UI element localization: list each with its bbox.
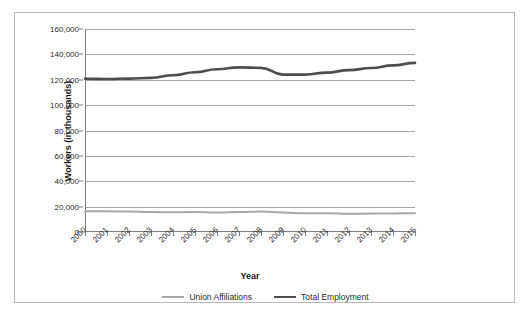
y-axis-tick-mark bbox=[79, 155, 83, 156]
y-axis-tick-mark bbox=[79, 54, 83, 55]
y-axis-tick-label: 100,000 bbox=[50, 101, 79, 110]
y-axis-tick-label: 40,000 bbox=[55, 177, 79, 186]
legend-label-total-employment: Total Employment bbox=[301, 292, 369, 302]
plot-area bbox=[85, 29, 415, 232]
y-axis-tick-label: 60,000 bbox=[55, 151, 79, 160]
chart-frame: Workers (in thousands) 020,00040,00060,0… bbox=[14, 12, 515, 303]
legend-item-total-employment: Total Employment bbox=[274, 292, 369, 302]
x-axis-title: Year bbox=[85, 271, 415, 281]
y-axis-tick-mark bbox=[79, 181, 83, 182]
series-line-total-employment bbox=[85, 63, 415, 79]
chart-legend: Union Affiliations Total Employment bbox=[15, 292, 516, 302]
legend-swatch-union-affiliations bbox=[162, 296, 184, 298]
y-axis-tick-label: 140,000 bbox=[50, 50, 79, 59]
y-axis-tick-label: 120,000 bbox=[50, 75, 79, 84]
y-axis-tick-mark bbox=[79, 79, 83, 80]
y-axis-tick-label: 20,000 bbox=[55, 202, 79, 211]
series-lines bbox=[85, 29, 415, 232]
y-axis-tick-mark bbox=[79, 130, 83, 131]
y-axis-tick-mark bbox=[79, 206, 83, 207]
y-axis-tick-labels: 020,00040,00060,00080,000100,000120,0001… bbox=[15, 29, 79, 232]
x-axis-tick-labels: 2000200120022003200420052006200720082009… bbox=[85, 232, 415, 274]
y-axis-tick-mark bbox=[79, 29, 83, 30]
legend-label-union-affiliations: Union Affiliations bbox=[189, 292, 252, 302]
y-axis-tick-label: 80,000 bbox=[55, 126, 79, 135]
series-line-union-affiliations bbox=[85, 211, 415, 213]
legend-item-union-affiliations: Union Affiliations bbox=[162, 292, 252, 302]
y-axis-tick-label: 160,000 bbox=[50, 25, 79, 34]
y-axis-tick-mark bbox=[79, 105, 83, 106]
legend-swatch-total-employment bbox=[274, 296, 296, 298]
